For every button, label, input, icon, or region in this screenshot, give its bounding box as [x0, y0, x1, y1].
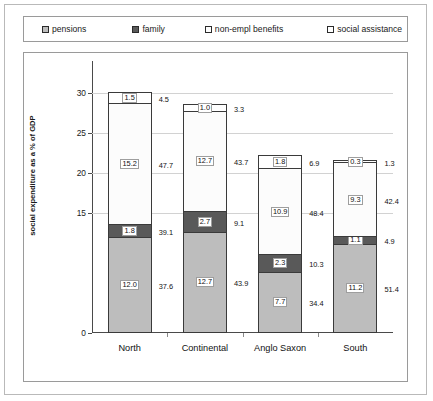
segment-share-label: 51.4 [384, 285, 398, 294]
bar-south[interactable]: 11.251.41.14.99.342.40.31.3 [333, 161, 377, 333]
segment-value-label: 15.2 [120, 159, 138, 169]
segment-share-label: 43.7 [234, 158, 248, 167]
y-axis-tick-mark [88, 213, 92, 214]
bar-segment-social[interactable]: 1.86.9 [258, 155, 302, 169]
x-axis-tick-mark [243, 333, 244, 337]
bar-segment-social[interactable]: 1.54.5 [108, 92, 152, 104]
bar-segment-social[interactable]: 0.31.3 [333, 160, 377, 163]
bar-segment-nonempl[interactable]: 9.342.4 [333, 162, 377, 236]
segment-share-label: 4.5 [159, 95, 169, 104]
y-axis-tick-mark [88, 333, 92, 334]
bar-segment-social[interactable]: 1.03.3 [183, 104, 227, 112]
segment-value-label: 1.0 [198, 103, 212, 113]
y-axis-tick-mark [88, 133, 92, 134]
y-axis-tick-label: 20 [66, 168, 86, 178]
segment-share-label: 43.9 [234, 279, 248, 288]
bar-segment-pensions[interactable]: 11.251.4 [333, 244, 377, 333]
plot-canvas: 01520253012.037.61.839.115.247.71.54.5No… [92, 67, 393, 333]
bar-segment-nonempl[interactable]: 15.247.7 [108, 103, 152, 224]
bar-continental[interactable]: 12.743.92.79.112.743.71.03.3 [183, 105, 227, 333]
social-swatch-icon [327, 26, 334, 33]
segment-value-label: 10.9 [271, 207, 289, 217]
legend-item-family: family [132, 24, 164, 34]
y-axis-tick-label: 15 [66, 208, 86, 218]
y-axis-line [92, 61, 93, 333]
segment-share-label: 48.4 [309, 209, 323, 218]
segment-share-label: 1.3 [384, 159, 394, 168]
family-swatch-icon [132, 26, 139, 33]
legend-item-nonempl-benefits: non-empl benefits [205, 24, 283, 34]
y-axis-tick-mark [88, 93, 92, 94]
segment-value-label: 1.5 [122, 93, 136, 103]
segment-value-label: 0.3 [348, 157, 362, 167]
legend-label-social-assistance: social assistance [337, 24, 402, 34]
bar-segment-family[interactable]: 2.79.1 [183, 211, 227, 233]
legend-label-nonempl-benefits: non-empl benefits [215, 24, 283, 34]
segment-value-label: 2.3 [273, 258, 287, 268]
bar-segment-pensions[interactable]: 12.743.9 [183, 232, 227, 333]
bar-north[interactable]: 12.037.61.839.115.247.71.54.5 [108, 93, 152, 333]
y-axis-tick-label: 30 [66, 88, 86, 98]
y-axis-title: social expenditure as a % of GDP [28, 101, 37, 251]
x-axis-tick-mark [318, 333, 319, 337]
bar-segment-nonempl[interactable]: 12.743.7 [183, 111, 227, 212]
y-axis-tick-label: 0 [66, 328, 86, 338]
legend-item-pensions: pensions [42, 24, 86, 34]
bar-segment-family[interactable]: 1.14.9 [333, 236, 377, 245]
segment-value-label: 12.7 [196, 277, 214, 287]
plot-area-border: social expenditure as a % of GDP 0152025… [23, 52, 408, 382]
segment-share-label: 34.4 [309, 299, 323, 308]
y-axis-tick-mark [88, 173, 92, 174]
nonempl-swatch-icon [205, 26, 212, 33]
segment-share-label: 6.9 [309, 159, 319, 168]
pensions-swatch-icon [42, 26, 49, 33]
bar-anglo-saxon[interactable]: 7.734.42.310.310.948.41.86.9 [258, 156, 302, 333]
legend-item-social-assistance: social assistance [327, 24, 402, 34]
y-axis-tick-label: 25 [66, 128, 86, 138]
segment-value-label: 1.8 [273, 157, 287, 167]
bar-segment-pensions[interactable]: 12.037.6 [108, 237, 152, 333]
segment-share-label: 47.7 [159, 161, 173, 170]
bar-segment-nonempl[interactable]: 10.948.4 [258, 168, 302, 255]
bar-segment-pensions[interactable]: 7.734.4 [258, 272, 302, 334]
segment-value-label: 7.7 [273, 297, 287, 307]
segment-value-label: 12.0 [120, 280, 138, 290]
segment-share-label: 4.9 [384, 237, 394, 246]
segment-value-label: 11.2 [346, 283, 364, 293]
chart-frame: pensions family non-empl benefits social… [4, 4, 427, 395]
legend-label-family: family [142, 24, 164, 34]
segment-share-label: 39.1 [159, 228, 173, 237]
segment-share-label: 42.4 [384, 197, 398, 206]
segment-value-label: 2.7 [198, 217, 212, 227]
x-axis-category-label: South [300, 343, 410, 353]
chart-legend: pensions family non-empl benefits social… [23, 16, 408, 42]
legend-label-pensions: pensions [52, 24, 86, 34]
segment-share-label: 9.1 [234, 219, 244, 228]
bar-segment-family[interactable]: 2.310.3 [258, 254, 302, 272]
segment-value-label: 1.8 [122, 226, 136, 236]
segment-share-label: 3.3 [234, 105, 244, 114]
x-axis-tick-mark [167, 333, 168, 337]
segment-value-label: 12.7 [196, 156, 214, 166]
bar-segment-family[interactable]: 1.839.1 [108, 224, 152, 238]
segment-value-label: 9.3 [348, 195, 362, 205]
segment-share-label: 10.3 [309, 260, 323, 269]
segment-share-label: 37.6 [159, 282, 173, 291]
